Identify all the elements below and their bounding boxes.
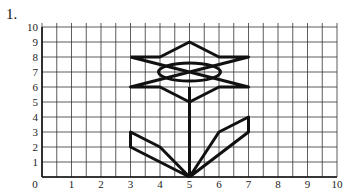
y-tick-label: 10 (27, 21, 39, 33)
y-tick-label: 9 (33, 36, 39, 48)
y-tick-label: 6 (33, 81, 39, 93)
y-tick-label: 3 (33, 126, 39, 138)
coordinate-grid: 01234567891012345678910 (0, 0, 345, 189)
x-tick-label: 1 (69, 178, 75, 189)
x-tick-label: 5 (187, 178, 193, 189)
y-tick-label: 4 (33, 111, 39, 123)
x-tick-label: 4 (157, 178, 163, 189)
x-tick-label: 7 (246, 178, 252, 189)
x-tick-label: 9 (305, 178, 311, 189)
x-tick-label: 0 (32, 178, 38, 189)
y-tick-label: 2 (33, 141, 39, 153)
y-tick-label: 5 (33, 96, 39, 108)
x-tick-label: 10 (332, 178, 344, 189)
x-tick-label: 2 (98, 178, 104, 189)
x-tick-label: 8 (275, 178, 281, 189)
x-tick-label: 3 (128, 178, 134, 189)
y-tick-label: 1 (33, 156, 39, 168)
y-tick-label: 7 (33, 66, 39, 78)
y-tick-label: 8 (33, 51, 39, 63)
x-tick-label: 6 (216, 178, 222, 189)
